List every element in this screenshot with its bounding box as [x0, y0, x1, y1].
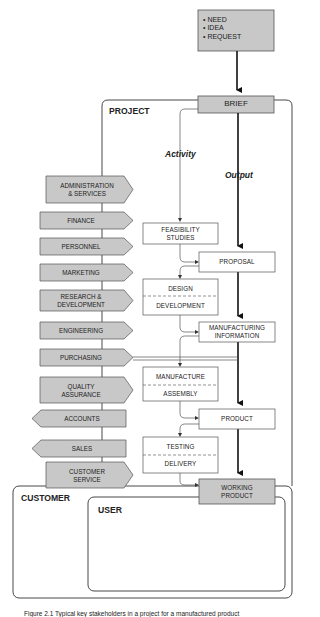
- brief-label: BRIEF: [198, 99, 274, 108]
- output-label: Output: [225, 170, 253, 180]
- input-list: • NEED • IDEA • REQUEST: [203, 16, 241, 41]
- dept-personnel: PERSONNEL: [40, 243, 122, 251]
- dept-sales: SALES: [38, 445, 126, 453]
- manufacture-label: MANUFACTURE: [143, 373, 218, 381]
- proposal-label: PROPOSAL: [199, 258, 275, 266]
- dept-finance: FINANCE: [40, 217, 122, 225]
- activity-label: Activity: [165, 149, 196, 159]
- project-boundary-right: [274, 100, 292, 486]
- testing-label: TESTING: [143, 443, 218, 451]
- figure-caption: Figure 2.1 Typical key stakeholders in a…: [24, 610, 239, 617]
- working-product-label: WORKING PRODUCT: [199, 484, 275, 499]
- product-label: PRODUCT: [199, 415, 275, 423]
- dept-administration: ADMINISTRATION & SERVICES: [46, 182, 128, 197]
- assembly-label: ASSEMBLY: [143, 390, 218, 398]
- user-label: USER: [98, 505, 122, 515]
- design-label: DESIGN: [143, 285, 218, 293]
- input-request: • REQUEST: [203, 33, 241, 41]
- manufacturing-information-label: MANUFACTURING INFORMATION: [199, 324, 275, 339]
- project-label: PROJECT: [109, 106, 150, 116]
- dept-accounts: ACCOUNTS: [38, 415, 126, 423]
- dept-purchasing: PURCHASING: [40, 354, 122, 362]
- delivery-label: DELIVERY: [143, 460, 218, 468]
- input-idea: • IDEA: [203, 24, 241, 32]
- dept-engineering: ENGINEERING: [40, 327, 122, 335]
- dept-marketing: MARKETING: [40, 269, 122, 277]
- feasibility-label: FEASIBILITY STUDIES: [143, 226, 218, 241]
- development-label: DEVELOPMENT: [143, 302, 218, 310]
- input-need: • NEED: [203, 16, 241, 24]
- customer-label: CUSTOMER: [21, 493, 70, 503]
- dept-customer-service: CUSTOMER SERVICE: [46, 468, 128, 483]
- dept-quality-assurance: QUALITY ASSURANCE: [40, 383, 122, 398]
- dept-research-development: RESEARCH & DEVELOPMENT: [40, 293, 122, 308]
